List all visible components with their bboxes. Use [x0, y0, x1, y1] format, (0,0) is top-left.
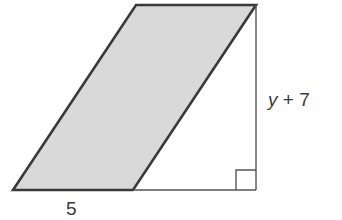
height-label: y + 7: [268, 90, 310, 109]
diagram-canvas: y + 7 5: [0, 0, 342, 220]
shaded-parallelogram: [13, 5, 256, 190]
base-label: 5: [66, 199, 77, 218]
geometry-figure: [0, 0, 342, 220]
height-constant: 7: [299, 89, 310, 110]
right-angle-marker: [236, 170, 256, 190]
height-operator: +: [283, 89, 294, 110]
height-variable: y: [268, 89, 278, 110]
